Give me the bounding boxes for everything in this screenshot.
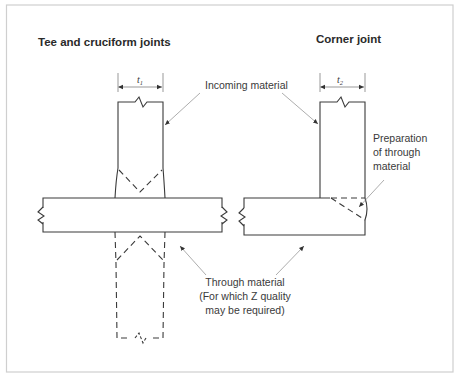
label-through-material-line3: may be required)	[205, 304, 284, 316]
dimension-t2: t2	[337, 74, 344, 86]
figure-frame	[7, 5, 454, 372]
label-preparation: Preparation	[373, 132, 427, 144]
corner-joint: t2	[239, 73, 367, 235]
tee-cruciform-joint: t1	[38, 73, 227, 343]
dimension-t1: t1	[137, 74, 143, 86]
title-tee-cruciform: Tee and cruciform joints	[38, 36, 171, 48]
label-preparation-line3: material	[373, 160, 410, 172]
label-preparation-line2: of through	[373, 146, 420, 158]
label-through-material-line2: (For which Z quality	[199, 290, 291, 302]
label-incoming-material: Incoming material	[205, 79, 288, 91]
joint-diagram: Tee and cruciform joints Corner joint t1	[0, 0, 462, 375]
label-through-material: Through material	[205, 276, 284, 288]
title-corner-joint: Corner joint	[316, 33, 381, 45]
